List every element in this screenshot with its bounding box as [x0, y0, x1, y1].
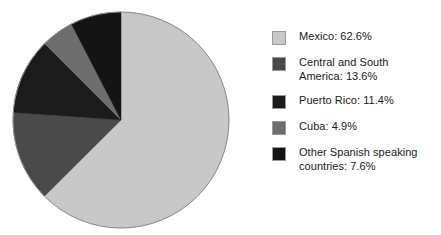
legend-swatch-other-spanish-speaking-countries	[272, 147, 286, 161]
chart-legend: Mexico: 62.6% Central and South America:…	[272, 30, 441, 230]
pie-slice-group	[13, 12, 229, 228]
pie-chart-graphic	[0, 0, 250, 235]
legend-item-central-and-south-america[interactable]: Central and South America: 13.6%	[272, 56, 441, 83]
legend-label-other-spanish-speaking-countries: Other Spanish speaking countries: 7.6%	[299, 146, 418, 173]
legend-label-cuba: Cuba: 4.9%	[299, 120, 357, 134]
legend-label-puerto-rico: Puerto Rico: 11.4%	[299, 94, 394, 108]
legend-swatch-central-and-south-america	[272, 57, 286, 71]
legend-swatch-mexico	[272, 31, 286, 45]
legend-item-mexico[interactable]: Mexico: 62.6%	[272, 30, 441, 45]
legend-item-other-spanish-speaking-countries[interactable]: Other Spanish speaking countries: 7.6%	[272, 146, 441, 173]
legend-item-puerto-rico[interactable]: Puerto Rico: 11.4%	[272, 94, 441, 109]
legend-label-central-and-south-america: Central and South America: 13.6%	[299, 56, 389, 83]
legend-swatch-cuba	[272, 121, 286, 135]
legend-swatch-puerto-rico	[272, 95, 286, 109]
pie-svg	[0, 0, 250, 235]
legend-item-cuba[interactable]: Cuba: 4.9%	[272, 120, 441, 135]
pie-chart-figure: Mexico: 62.6% Central and South America:…	[0, 0, 441, 235]
legend-label-mexico: Mexico: 62.6%	[299, 30, 372, 44]
